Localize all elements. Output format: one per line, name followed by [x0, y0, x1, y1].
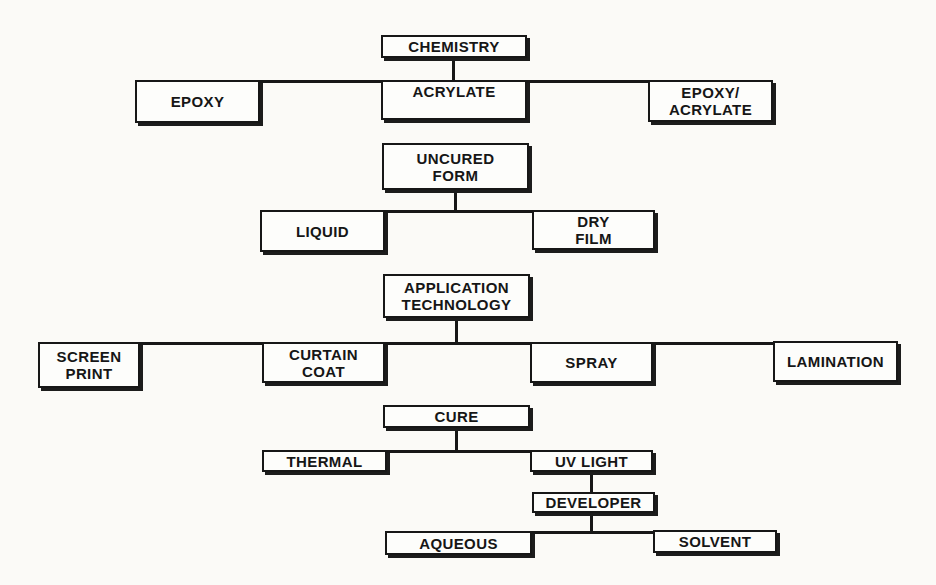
node-epoxy-acrylate-label: EPOXY/ ACRYLATE: [669, 84, 752, 118]
node-lamination-label: LAMINATION: [787, 353, 884, 370]
node-thermal: THERMAL: [262, 450, 387, 472]
node-solvent-label: SOLVENT: [679, 533, 752, 550]
node-uv-light: UV LIGHT: [530, 450, 653, 472]
node-uncured-form-label: UNCURED FORM: [417, 150, 495, 184]
node-uv-light-label: UV LIGHT: [555, 453, 628, 470]
node-curtain-coat-label: CURTAIN COAT: [289, 346, 358, 380]
flowchart-canvas: CHEMISTRY EPOXY ACRYLATE EPOXY/ ACRYLATE…: [0, 0, 936, 585]
node-aqueous-label: AQUEOUS: [419, 535, 498, 552]
connector-cure-down: [455, 426, 458, 453]
node-dry-film-label: DRY FILM: [575, 213, 612, 247]
node-epoxy-label: EPOXY: [171, 93, 225, 110]
node-cure-label: CURE: [434, 408, 478, 425]
node-solvent: SOLVENT: [653, 530, 777, 553]
node-epoxy-acrylate: EPOXY/ ACRYLATE: [648, 80, 773, 122]
node-developer-label: DEVELOPER: [545, 494, 641, 511]
connector-chemistry-down: [452, 56, 455, 83]
node-spray-label: SPRAY: [565, 354, 617, 371]
node-acrylate: ACRYLATE: [381, 80, 527, 120]
node-epoxy: EPOXY: [135, 80, 260, 123]
node-dry-film: DRY FILM: [532, 210, 655, 250]
node-aqueous: AQUEOUS: [385, 531, 532, 555]
connector-application-down: [455, 316, 458, 345]
node-application-technology-label: APPLICATION TECHNOLOGY: [402, 279, 512, 313]
node-application-technology: APPLICATION TECHNOLOGY: [383, 274, 530, 318]
node-cure: CURE: [383, 405, 530, 428]
connector-application-row: [38, 342, 898, 345]
node-thermal-label: THERMAL: [286, 453, 362, 470]
node-chemistry: CHEMISTRY: [381, 35, 527, 58]
node-developer: DEVELOPER: [532, 492, 655, 513]
node-screen-print-label: SCREEN PRINT: [57, 348, 122, 382]
node-spray: SPRAY: [530, 342, 653, 383]
node-liquid: LIQUID: [260, 210, 385, 252]
node-screen-print: SCREEN PRINT: [38, 342, 140, 388]
node-lamination: LAMINATION: [773, 341, 898, 382]
node-uncured-form: UNCURED FORM: [382, 143, 529, 190]
node-liquid-label: LIQUID: [296, 223, 349, 240]
node-curtain-coat: CURTAIN COAT: [262, 342, 385, 383]
node-acrylate-label: ACRYLATE: [412, 82, 495, 100]
node-chemistry-label: CHEMISTRY: [408, 38, 499, 55]
